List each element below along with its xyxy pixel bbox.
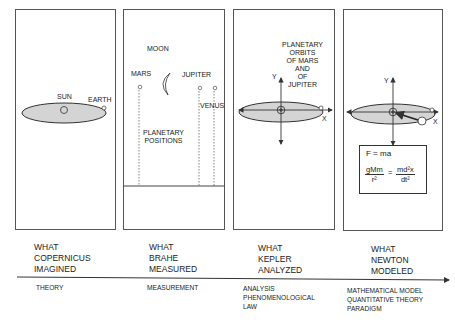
venus-icon — [213, 86, 217, 90]
mars-icon — [138, 85, 142, 89]
earth-label: EARTH — [88, 96, 112, 104]
rhs-denominator: dt² — [396, 175, 415, 184]
stage-mathematical-model: MATHEMATICAL MODEL QUANTITATIVE THEORY P… — [347, 286, 423, 313]
planetary-positions-label: PLANETARY POSITIONS — [143, 129, 184, 145]
newton-x-axis-label: X — [433, 118, 438, 126]
formula-equals: = — [388, 168, 392, 177]
newton-orbit — [347, 78, 438, 145]
sun-label: SUN — [57, 93, 72, 101]
kepler-x-axis-label: X — [322, 115, 327, 123]
planetary-orbits-label: PLANETARY ORBITS OF MARS AND OF JUPITER — [282, 41, 323, 89]
kepler-y-axis-label: Y — [272, 73, 277, 81]
copernicus-orbit — [22, 103, 106, 123]
lhs-numerator: gMm — [365, 165, 384, 175]
moon-icon — [163, 73, 170, 95]
stage-measurement: MEASUREMENT — [147, 283, 198, 292]
formula-rhs: md²x dt² — [396, 165, 415, 184]
stage-analysis: ANALYSIS PHENOMENOLOGICAL LAW — [243, 284, 315, 311]
jupiter-icon — [198, 86, 202, 90]
caption-brahe: WHAT BRAHE MEASURED — [149, 242, 197, 275]
formula-fma: F = ma — [366, 149, 391, 158]
formula-box: F = ma gMm r² = md²x dt² — [359, 145, 427, 194]
moon-label: MOON — [147, 45, 169, 53]
earth-icon — [102, 106, 106, 110]
formula-lhs: gMm r² — [365, 165, 384, 184]
mars-label: MARS — [131, 70, 151, 78]
jupiter-label: JUPITER — [182, 71, 211, 79]
caption-newton: WHAT NEWTON MODELED — [371, 244, 413, 277]
caption-copernicus: WHAT COPERNICUS IMAGINED — [34, 242, 91, 275]
newton-y-axis-label: Y — [384, 77, 389, 85]
timeline-axis — [17, 277, 449, 280]
rhs-numerator: md²x — [396, 165, 415, 175]
venus-label: VENUS — [200, 102, 224, 110]
lhs-denominator: r² — [365, 175, 384, 184]
stage-theory: THEORY — [36, 283, 63, 292]
caption-kepler: WHAT KEPLER ANALYZED — [258, 243, 302, 276]
